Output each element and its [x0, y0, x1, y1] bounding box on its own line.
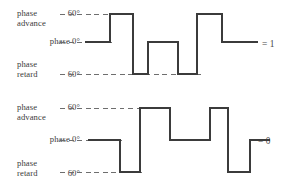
bottom-advance-value: 60°	[38, 103, 80, 113]
top-advance-value: 60°	[38, 9, 80, 19]
phase-waveform-figure: phase advance 60° phase 0° phase retard …	[0, 0, 293, 190]
bottom-zero-value: phase 0°	[10, 135, 80, 145]
panel-top-trace	[85, 14, 258, 74]
waveform-traces	[85, 14, 270, 172]
bottom-advance-name-line2: advance	[17, 113, 46, 123]
top-retard-value: 60°	[38, 70, 80, 80]
bottom-retard-value: 60°	[38, 169, 80, 179]
reference-dashed-lines	[60, 14, 205, 172]
top-advance-name-line2: advance	[17, 19, 46, 29]
panel-bottom-trace	[88, 108, 270, 172]
top-retard-name-line2: retard	[17, 70, 38, 80]
top-result-label: = 1	[262, 39, 274, 49]
top-zero-value: phase 0°	[10, 37, 80, 47]
bottom-result-label: = 0	[258, 136, 270, 146]
bottom-retard-name-line2: retard	[17, 169, 38, 179]
